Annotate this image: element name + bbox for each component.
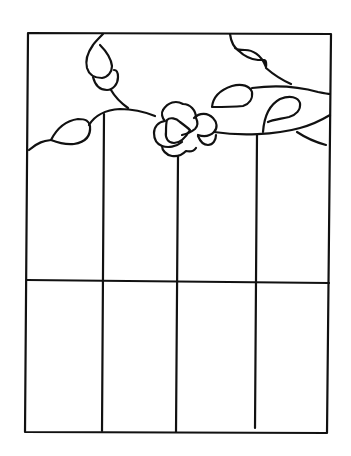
leaf-upper-left-lower <box>93 70 118 90</box>
tendril-right <box>297 132 326 145</box>
leaf-right <box>263 97 300 132</box>
leaf-center-right <box>212 85 252 107</box>
vertical-divider-3 <box>255 135 257 428</box>
stem-upper-right <box>266 68 291 84</box>
vine-left <box>29 109 155 150</box>
leaf-upper-right <box>230 34 266 67</box>
vine-right <box>214 87 330 135</box>
leaf-upper-left <box>86 34 112 78</box>
stained-glass-pattern <box>0 0 351 456</box>
leaf-left <box>51 119 90 144</box>
stem-upper-left <box>111 90 128 108</box>
rose <box>154 102 217 156</box>
vertical-divider-1 <box>102 114 104 431</box>
vertical-divider-2 <box>176 157 178 432</box>
